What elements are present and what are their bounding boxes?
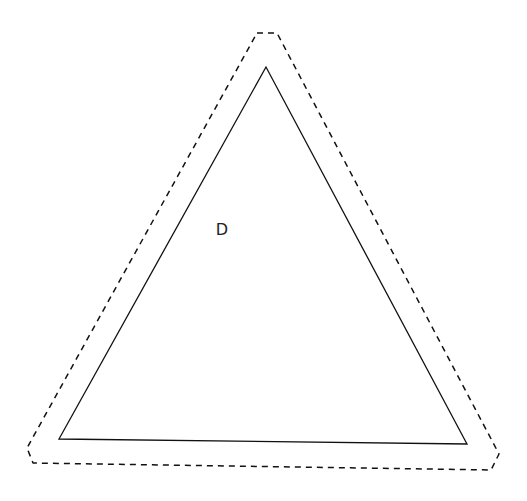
background	[0, 0, 527, 501]
diagram-canvas: D	[0, 0, 527, 501]
triangle-label: D	[216, 220, 228, 239]
